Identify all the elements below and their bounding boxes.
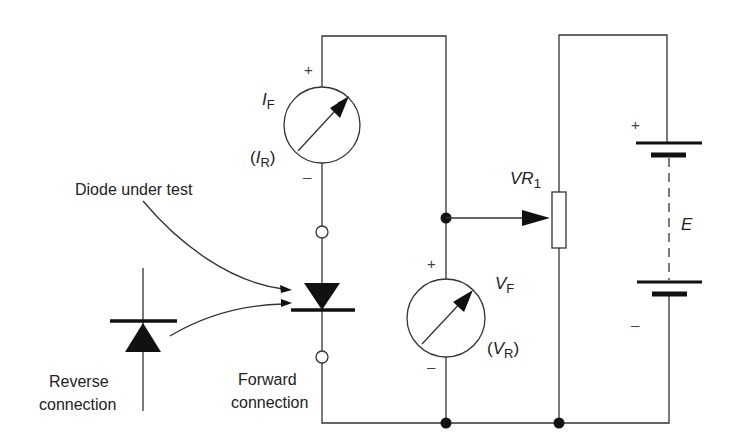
- label-forward-line2: connection: [231, 394, 308, 411]
- battery-minus-sign: –: [631, 316, 640, 333]
- junction-dot-bottom-right: [554, 418, 565, 429]
- ammeter-minus-sign: –: [303, 168, 312, 185]
- potentiometer: VR1: [510, 35, 667, 423]
- diode-reverse: [110, 268, 177, 411]
- battery: + – E: [631, 116, 702, 333]
- label-reverse-line1: Reverse: [49, 373, 109, 390]
- voltmeter-plus-sign: +: [427, 255, 436, 272]
- terminal-lower: [316, 351, 328, 363]
- voltmeter-label-main: VF: [495, 274, 514, 296]
- left-loop-wires: [322, 36, 669, 423]
- pointer-arrowhead-2: [281, 299, 292, 307]
- wiper-arrowhead-icon: [522, 210, 550, 226]
- potentiometer-label: VR1: [510, 169, 541, 191]
- label-forward-line1: Forward: [238, 371, 297, 388]
- circuit-diagram: + – IF (IR) Diode under test Reverse con…: [0, 0, 738, 446]
- pointer-arrow-diode-under-test: [143, 201, 283, 289]
- ammeter-plus-sign: +: [304, 61, 313, 78]
- label-diode-under-test: Diode under test: [75, 181, 193, 198]
- voltmeter-label-alt: (VR): [487, 339, 519, 361]
- potentiometer-body: [552, 192, 566, 248]
- pointer-arrowhead-1: [280, 285, 292, 293]
- ammeter-label-alt: (IR): [250, 148, 275, 170]
- diode-forward-triangle-icon: [304, 283, 340, 310]
- diode-reverse-triangle-icon: [125, 323, 161, 352]
- battery-label: E: [681, 215, 693, 234]
- voltmeter: + – VF (VR): [407, 255, 519, 375]
- battery-plus-sign: +: [631, 116, 640, 133]
- ammeter-label-main: IF: [262, 90, 275, 112]
- pointer-arrow-reverse: [170, 304, 283, 336]
- label-reverse-line2: connection: [39, 396, 116, 413]
- junction-dot-bottom-left: [441, 418, 452, 429]
- ammeter: + – IF (IR): [250, 61, 360, 185]
- voltmeter-minus-sign: –: [427, 358, 436, 375]
- terminal-upper: [316, 226, 328, 238]
- diode-forward: [291, 283, 355, 310]
